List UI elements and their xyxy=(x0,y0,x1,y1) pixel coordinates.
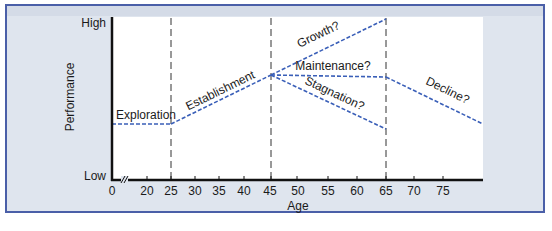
svg-text:45: 45 xyxy=(263,184,277,198)
svg-text:70: 70 xyxy=(407,184,421,198)
svg-text:0: 0 xyxy=(109,184,116,198)
svg-text:35: 35 xyxy=(212,184,226,198)
y-label-low: Low xyxy=(84,169,106,183)
axis-break-icon xyxy=(121,176,128,183)
svg-text:75: 75 xyxy=(436,184,450,198)
svg-text:20: 20 xyxy=(140,184,154,198)
label-exploration: Exploration xyxy=(116,108,176,122)
label-maintenance: Maintenance? xyxy=(295,59,371,73)
svg-text:50: 50 xyxy=(291,184,305,198)
svg-text:30: 30 xyxy=(188,184,202,198)
x-axis-title: Age xyxy=(287,199,309,213)
y-label-high: High xyxy=(81,16,106,30)
svg-text:55: 55 xyxy=(321,184,335,198)
x-tick-labels: 0 20 25 30 35 40 45 50 55 60 65 70 75 xyxy=(109,184,450,198)
svg-text:65: 65 xyxy=(379,184,393,198)
svg-text:25: 25 xyxy=(164,184,178,198)
y-axis-title: Performance xyxy=(63,62,77,131)
svg-text:60: 60 xyxy=(350,184,364,198)
svg-text:40: 40 xyxy=(237,184,251,198)
career-stage-chart: 0 20 25 30 35 40 45 50 55 60 65 70 75 Ag… xyxy=(0,0,552,231)
